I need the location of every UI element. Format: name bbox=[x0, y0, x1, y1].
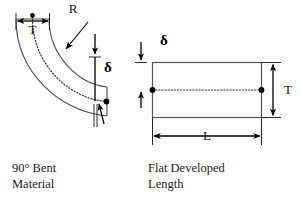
bend-inner-arc bbox=[49, 19, 107, 87]
flat-neutral-axis-right-node bbox=[259, 87, 265, 93]
flat-developed-view: δ T L Flat Developed Length bbox=[135, 32, 292, 191]
bend-thickness-label: T bbox=[29, 22, 37, 37]
bend-delta-label: δ bbox=[104, 59, 112, 75]
flat-delta-label: δ bbox=[160, 32, 168, 48]
diagram-canvas: T R δ 90° Bent Material bbox=[0, 0, 301, 217]
bend-radius-leader bbox=[66, 22, 88, 49]
flat-developed-caption-line1: Flat Developed bbox=[148, 161, 225, 175]
bent-material-caption-line1: 90° Bent bbox=[12, 161, 57, 175]
bend-radius-label: R bbox=[69, 1, 78, 16]
bent-material-caption-line2: Material bbox=[12, 177, 55, 191]
neutral-axis-top-node bbox=[30, 13, 35, 18]
bend-neutral-axis bbox=[33, 19, 108, 102]
bent-material-view: T R δ 90° Bent Material bbox=[12, 1, 112, 191]
flat-developed-caption-line2: Length bbox=[148, 177, 184, 191]
neutral-axis-end-node bbox=[104, 99, 110, 105]
bend-delta-bottom-arrow bbox=[99, 104, 104, 124]
engineering-diagram: T R δ 90° Bent Material bbox=[0, 0, 301, 217]
flat-length-label: L bbox=[203, 128, 211, 143]
flat-thickness-label: T bbox=[284, 82, 292, 97]
flat-neutral-axis-left-node bbox=[150, 87, 156, 93]
